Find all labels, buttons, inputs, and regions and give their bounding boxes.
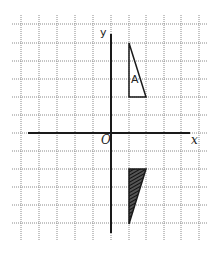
shaded-triangle-image [129,169,146,224]
triangle-a [129,43,146,97]
triangle-a-label: A [131,73,139,86]
y-axis-label: y [100,26,107,39]
coordinate-diagram: y O x A [0,0,215,255]
x-axis-label: x [191,133,198,147]
origin-label: O [101,133,111,147]
